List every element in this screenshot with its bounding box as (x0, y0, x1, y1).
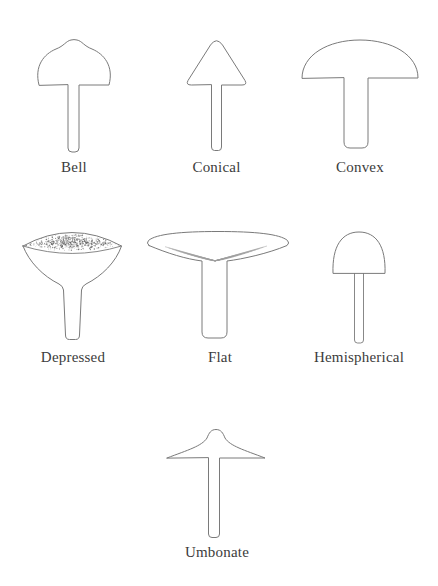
label-hemispherical: Hemispherical (314, 348, 404, 366)
label-umbonate: Umbonate (185, 543, 249, 561)
figure-flat: Flat (145, 228, 295, 366)
label-convex: Convex (336, 158, 384, 176)
figure-umbonate: Umbonate (158, 425, 276, 561)
label-conical: Conical (192, 158, 240, 176)
hemispherical-stem (355, 273, 364, 343)
hemispherical-cap (333, 232, 385, 273)
figure-hemispherical: Hemispherical (303, 228, 415, 366)
label-flat: Flat (208, 348, 232, 366)
figure-conical: Conical (161, 38, 272, 176)
label-bell: Bell (61, 158, 87, 176)
conical-outline (187, 41, 246, 151)
conical-mushroom-illustration (161, 38, 272, 156)
figure-convex: Convex (295, 38, 425, 176)
label-depressed: Depressed (41, 348, 105, 366)
figure-depressed: Depressed (15, 228, 131, 366)
depressed-mushroom-illustration (15, 228, 131, 346)
hemispherical-mushroom-illustration (303, 228, 415, 346)
umbonate-mushroom-illustration (158, 425, 276, 541)
umbonate-outline (167, 430, 265, 538)
convex-outline (302, 40, 418, 148)
figure-bell: Bell (18, 38, 130, 176)
convex-mushroom-illustration (295, 38, 425, 156)
depressed-outline (23, 233, 122, 340)
bell-outline (38, 40, 111, 152)
bell-mushroom-illustration (18, 38, 130, 156)
flat-mushroom-illustration (145, 228, 295, 346)
mushroom-cap-shapes-diagram: Bell Conical Convex Depressed (0, 0, 438, 586)
